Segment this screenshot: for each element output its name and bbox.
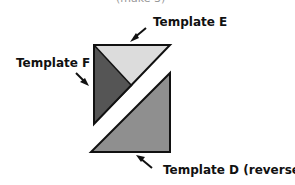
template-f-label: Template F xyxy=(16,56,90,70)
arrow-template-e-icon xyxy=(130,28,146,42)
template-e-label: Template E xyxy=(153,15,227,29)
quilt-block-diagram xyxy=(0,0,295,185)
template-d-label: Template D (reversed) xyxy=(163,163,295,177)
arrow-template-f-icon xyxy=(76,73,89,86)
arrow-template-d-icon xyxy=(136,155,152,168)
